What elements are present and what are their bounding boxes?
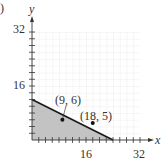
y-tick-32: 32 (13, 22, 25, 36)
point-18-5-label: (18, 5) (80, 109, 112, 123)
y-tick-16: 16 (13, 78, 25, 92)
y-axis-label: y (28, 2, 35, 16)
inequality-graph: ) (0, 0, 161, 164)
point-9-6-label: (9, 6) (55, 93, 81, 107)
x-tick-16: 16 (80, 147, 92, 161)
x-axis-label: x (154, 133, 161, 147)
x-axis-arrow-icon (148, 138, 154, 142)
panel-label: ) (0, 1, 4, 15)
x-tick-32: 32 (133, 147, 145, 161)
y-axis-arrow-icon (30, 16, 34, 22)
